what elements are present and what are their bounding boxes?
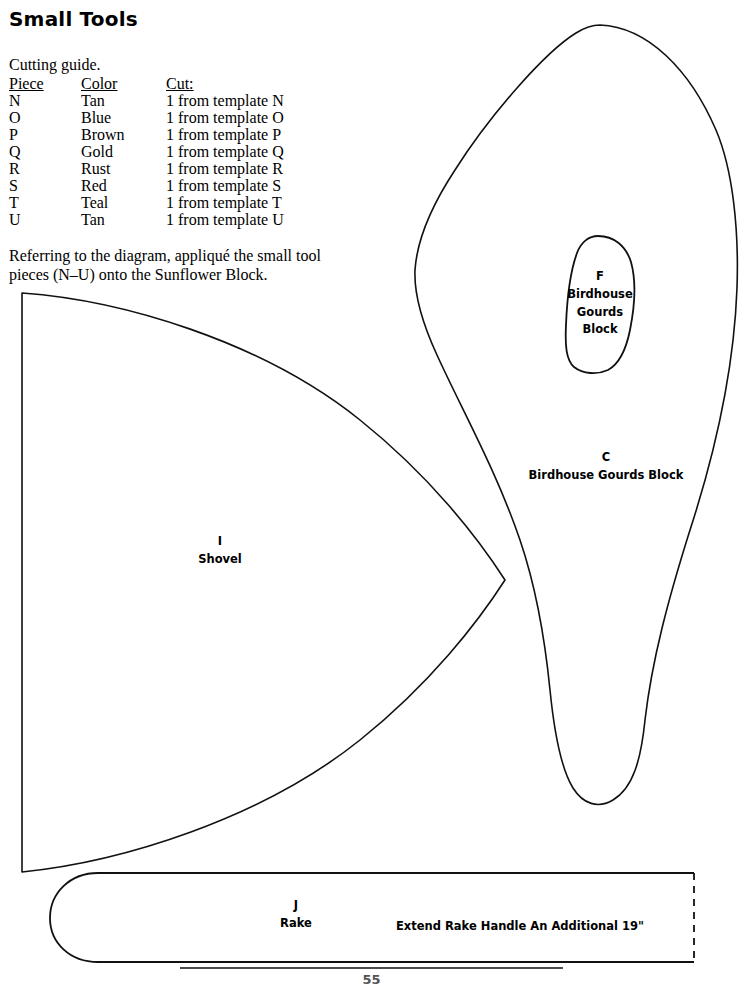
- shape-label-i-line-1: Shovel: [198, 552, 242, 566]
- shape-letter-j: J: [236, 897, 356, 915]
- shape-label-c: C Birdhouse Gourds Block: [506, 449, 706, 485]
- shape-label-j: J Rake: [236, 897, 356, 933]
- shape-letter-f: F: [540, 268, 660, 286]
- shape-label-f-line-2: Gourds: [577, 305, 623, 319]
- shape-letter-c: C: [506, 449, 706, 467]
- page-number: 55: [0, 972, 743, 985]
- rake-outline-j-shape: [50, 873, 694, 962]
- shape-label-f-line-3: Block: [582, 322, 617, 336]
- shape-label-f: F Birdhouse Gourds Block: [540, 268, 660, 339]
- shape-label-f-line-1: Birdhouse: [567, 287, 633, 301]
- rake-extension-note: Extend Rake Handle An Additional 19": [396, 919, 644, 933]
- page: Small Tools Cutting guide. Piece Color C…: [0, 0, 743, 985]
- gourd-outline-c-shape: [415, 25, 737, 804]
- shape-label-c-line-1: Birdhouse Gourds Block: [529, 468, 684, 482]
- shape-letter-i: I: [160, 533, 280, 551]
- shovel-outline-i-shape: [22, 293, 505, 872]
- shape-label-i: I Shovel: [160, 533, 280, 569]
- shape-label-j-line-1: Rake: [280, 916, 312, 930]
- pattern-diagram: [0, 0, 743, 985]
